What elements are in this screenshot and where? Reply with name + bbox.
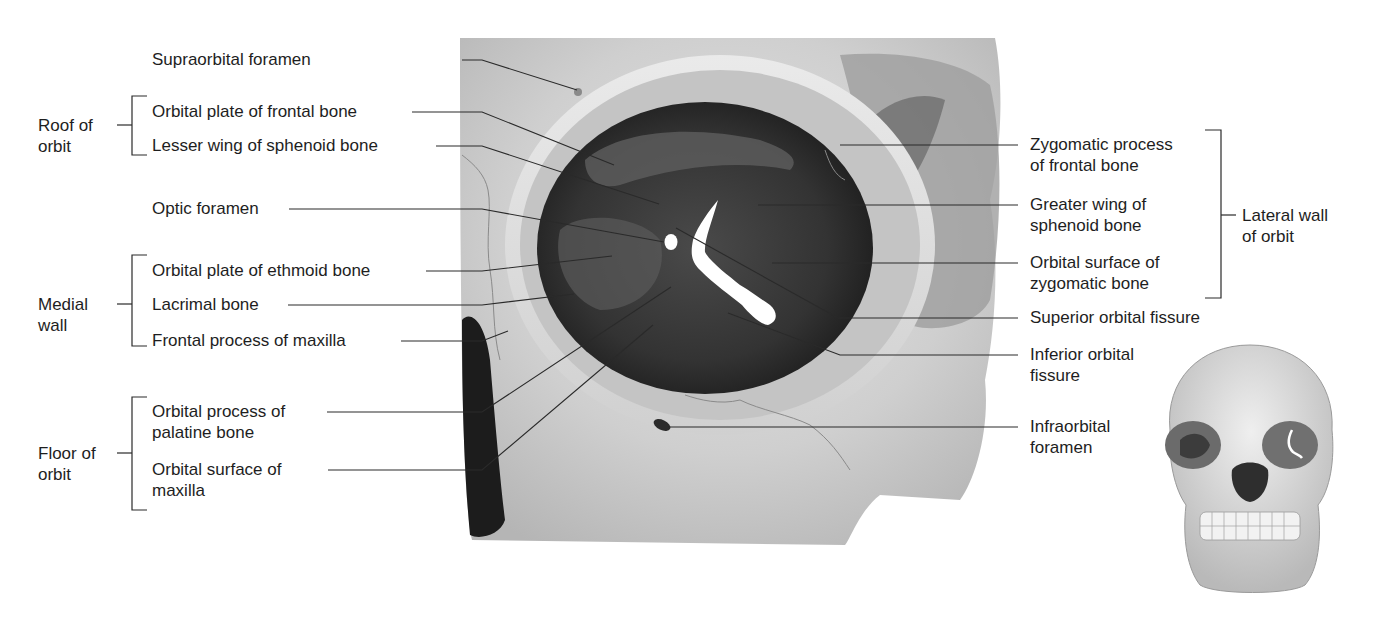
label-orbital-surface-maxilla: Orbital surface of maxilla xyxy=(152,459,281,501)
label-optic-foramen: Optic foramen xyxy=(152,198,259,219)
label-line: of frontal bone xyxy=(1030,155,1173,176)
label-orbital-process-palatine: Orbital process of palatine bone xyxy=(152,401,285,443)
label-line: zygomatic bone xyxy=(1030,273,1159,294)
label-orbital-surface-zygomatic: Orbital surface of zygomatic bone xyxy=(1030,252,1159,294)
label-line: Orbital process of xyxy=(152,401,285,422)
label-superior-orbital-fissure: Superior orbital fissure xyxy=(1030,307,1200,328)
group-label-line: of orbit xyxy=(1242,226,1328,247)
label-line: sphenoid bone xyxy=(1030,215,1146,236)
label-line: Inferior orbital xyxy=(1030,344,1134,365)
label-orbital-plate-ethmoid: Orbital plate of ethmoid bone xyxy=(152,260,370,281)
skull-inset xyxy=(1165,345,1333,593)
label-line: Orbital surface of xyxy=(1030,252,1159,273)
group-label-line: wall xyxy=(38,315,88,336)
orbit-bone-region xyxy=(460,38,1000,545)
label-zygomatic-process-frontal: Zygomatic process of frontal bone xyxy=(1030,134,1173,176)
label-line: Greater wing of xyxy=(1030,194,1146,215)
group-label-line: Roof of xyxy=(38,115,93,136)
label-line: fissure xyxy=(1030,365,1134,386)
label-line: Zygomatic process xyxy=(1030,134,1173,155)
group-label-medial-wall: Medial wall xyxy=(38,294,88,336)
label-line: maxilla xyxy=(152,480,281,501)
label-lesser-wing-sphenoid: Lesser wing of sphenoid bone xyxy=(152,135,378,156)
label-greater-wing-sphenoid: Greater wing of sphenoid bone xyxy=(1030,194,1146,236)
label-line: foramen xyxy=(1030,437,1110,458)
group-label-line: Medial xyxy=(38,294,88,315)
label-infraorbital-foramen: Infraorbital foramen xyxy=(1030,416,1110,458)
group-label-floor-of-orbit: Floor of orbit xyxy=(38,443,96,485)
label-lacrimal-bone: Lacrimal bone xyxy=(152,294,259,315)
label-inferior-orbital-fissure: Inferior orbital fissure xyxy=(1030,344,1134,386)
label-frontal-process-maxilla: Frontal process of maxilla xyxy=(152,330,346,351)
group-label-line: orbit xyxy=(38,136,93,157)
group-label-line: orbit xyxy=(38,464,96,485)
label-line: Orbital surface of xyxy=(152,459,281,480)
group-label-line: Lateral wall xyxy=(1242,205,1328,226)
group-label-roof-of-orbit: Roof of orbit xyxy=(38,115,93,157)
group-label-lateral-wall: Lateral wall of orbit xyxy=(1242,205,1328,247)
label-orbital-plate-frontal: Orbital plate of frontal bone xyxy=(152,101,357,122)
label-supraorbital-foramen: Supraorbital foramen xyxy=(152,49,311,70)
label-line: Infraorbital xyxy=(1030,416,1110,437)
group-label-line: Floor of xyxy=(38,443,96,464)
label-line: palatine bone xyxy=(152,422,285,443)
